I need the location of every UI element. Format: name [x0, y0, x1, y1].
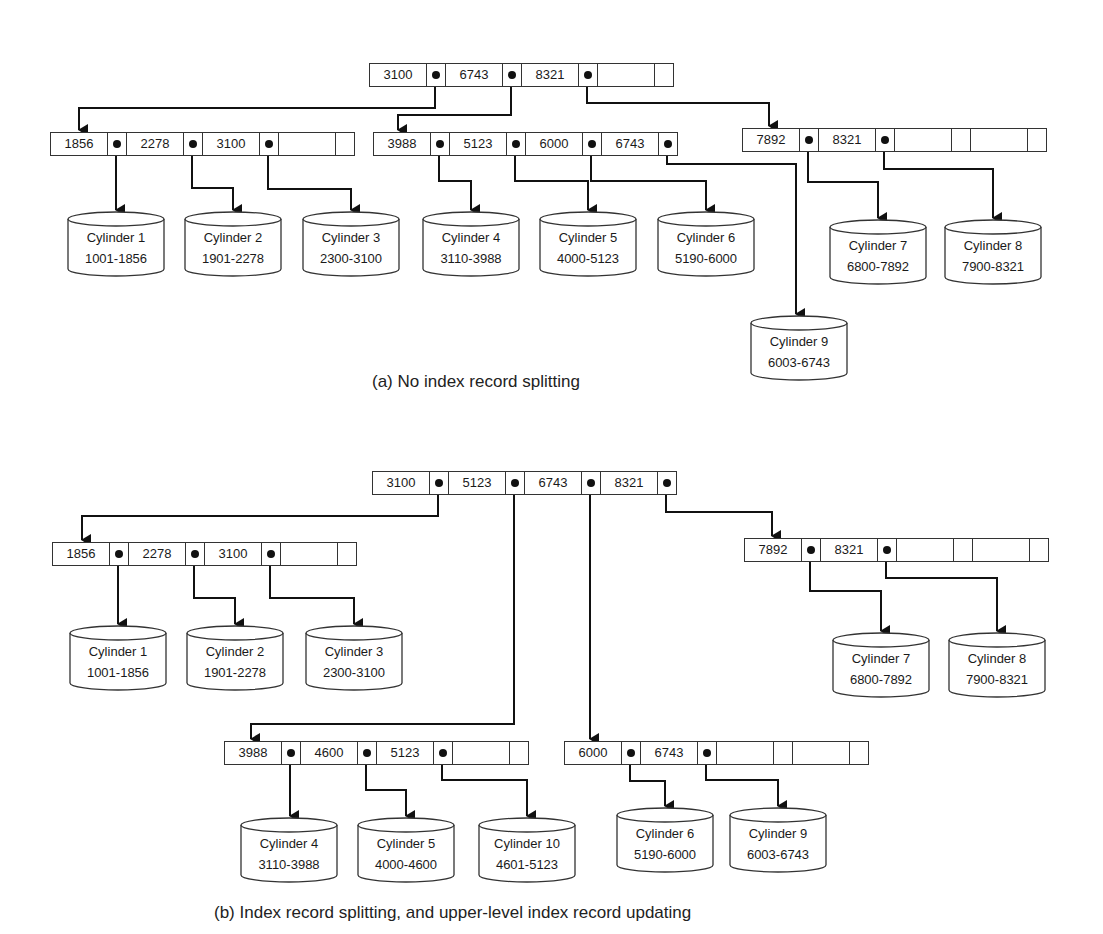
index-pointer	[799, 128, 819, 152]
index-pointer	[505, 471, 525, 495]
cylinder-range: 6003-6743	[754, 354, 844, 372]
index-key: 6743	[524, 471, 582, 495]
index-pointer	[801, 538, 821, 562]
index-key: 8321	[600, 471, 658, 495]
index-key: 6000	[525, 132, 583, 156]
cylinder-range: 1901-2278	[190, 664, 280, 682]
cylinder-name: Cylinder 3	[306, 229, 396, 247]
index-pointer	[430, 132, 450, 156]
pointer-dot-icon	[435, 479, 443, 487]
cylinder-name: Cylinder 1	[71, 229, 161, 247]
cylinder-range: 1001-1856	[71, 250, 161, 268]
cylinder-range: 7900-8321	[948, 258, 1038, 276]
index-key: 3100	[372, 471, 430, 495]
pointer-dot-icon	[191, 550, 199, 558]
index-key: 3988	[224, 741, 282, 765]
cylinder-name: Cylinder 2	[190, 643, 280, 661]
index-key: 5123	[376, 741, 434, 765]
index-key: 8321	[818, 128, 876, 152]
pointer-dot-icon	[512, 140, 520, 148]
cylinder-range: 4601-5123	[482, 856, 572, 874]
cylinder-name: Cylinder 10	[482, 835, 572, 853]
index-key: 6743	[445, 63, 503, 87]
empty-key-slot	[792, 741, 850, 765]
pointer-dot-icon	[265, 140, 273, 148]
empty-pointer-slot	[335, 132, 355, 156]
index-pointer	[657, 471, 677, 495]
cylinder-range: 7900-8321	[952, 671, 1042, 689]
index-pointer	[281, 741, 301, 765]
cylinder-name: Cylinder 5	[361, 835, 451, 853]
cylinder-range: 2300-3100	[306, 250, 396, 268]
index-pointer	[107, 132, 127, 156]
index-key: 3100	[369, 63, 427, 87]
cylinder-range: 4000-5123	[543, 250, 633, 268]
cylinder-name: Cylinder 8	[948, 237, 1038, 255]
pointer-dot-icon	[189, 140, 197, 148]
cylinder-range: 4000-4600	[361, 856, 451, 874]
pointer-dot-icon	[436, 140, 444, 148]
empty-key-slot	[894, 128, 952, 152]
pointer-dot-icon	[881, 136, 889, 144]
pointer-dot-icon	[439, 749, 447, 757]
cylinder-range: 5190-6000	[620, 846, 710, 864]
cylinder-range: 5190-6000	[661, 250, 751, 268]
cylinder-name: Cylinder 8	[952, 650, 1042, 668]
index-key: 3100	[204, 542, 262, 566]
pointer-dot-icon	[584, 71, 592, 79]
pointer-dot-icon	[703, 749, 711, 757]
cylinder-range: 6800-7892	[833, 258, 923, 276]
cylinder-name: Cylinder 6	[620, 825, 710, 843]
pointer-arrow	[251, 482, 514, 739]
empty-pointer-slot	[953, 538, 973, 562]
cylinder-name: Cylinder 5	[543, 229, 633, 247]
index-key: 8321	[820, 538, 878, 562]
cylinder-range: 2300-3100	[309, 664, 399, 682]
pointer-dot-icon	[663, 479, 671, 487]
pointer-dot-icon	[287, 749, 295, 757]
cylinder-range: 3110-3988	[244, 856, 334, 874]
index-key: 5123	[448, 471, 506, 495]
empty-pointer-slot	[337, 542, 357, 566]
index-pointer	[578, 63, 598, 87]
index-pointer	[109, 542, 129, 566]
cylinder-name: Cylinder 7	[833, 237, 923, 255]
pointer-dot-icon	[363, 749, 371, 757]
index-key: 1856	[52, 542, 110, 566]
empty-key-slot	[452, 741, 510, 765]
index-pointer	[259, 132, 279, 156]
cylinder-range: 1001-1856	[73, 664, 163, 682]
pointer-dot-icon	[807, 546, 815, 554]
pointer-dot-icon	[511, 479, 519, 487]
pointer-dot-icon	[805, 136, 813, 144]
empty-key-slot	[280, 542, 338, 566]
index-pointer	[506, 132, 526, 156]
index-key: 7892	[742, 128, 800, 152]
empty-key-slot	[896, 538, 954, 562]
empty-pointer-slot	[773, 741, 793, 765]
cylinder-range: 1901-2278	[188, 250, 278, 268]
cylinder-name: Cylinder 6	[661, 229, 751, 247]
pointer-dot-icon	[588, 140, 596, 148]
empty-pointer-slot	[951, 128, 971, 152]
empty-pointer-slot	[849, 741, 869, 765]
index-key: 6000	[564, 741, 622, 765]
index-pointer	[183, 132, 203, 156]
index-key: 6743	[640, 741, 698, 765]
cylinder-range: 6003-6743	[733, 846, 823, 864]
pointer-dot-icon	[508, 71, 516, 79]
empty-pointer-slot	[654, 63, 674, 87]
index-key: 2278	[128, 542, 186, 566]
empty-pointer-slot	[1027, 128, 1047, 152]
index-pointer	[582, 132, 602, 156]
index-key: 3988	[373, 132, 431, 156]
empty-pointer-slot	[1029, 538, 1049, 562]
caption-b: (b) Index record splitting, and upper-le…	[214, 903, 691, 923]
index-pointer	[426, 63, 446, 87]
cylinder-name: Cylinder 9	[754, 333, 844, 351]
empty-key-slot	[972, 538, 1030, 562]
empty-key-slot	[278, 132, 336, 156]
index-pointer	[621, 741, 641, 765]
index-splitting-diagram: 3100674383211856227831003988512360006743…	[0, 0, 1103, 934]
empty-key-slot	[970, 128, 1028, 152]
